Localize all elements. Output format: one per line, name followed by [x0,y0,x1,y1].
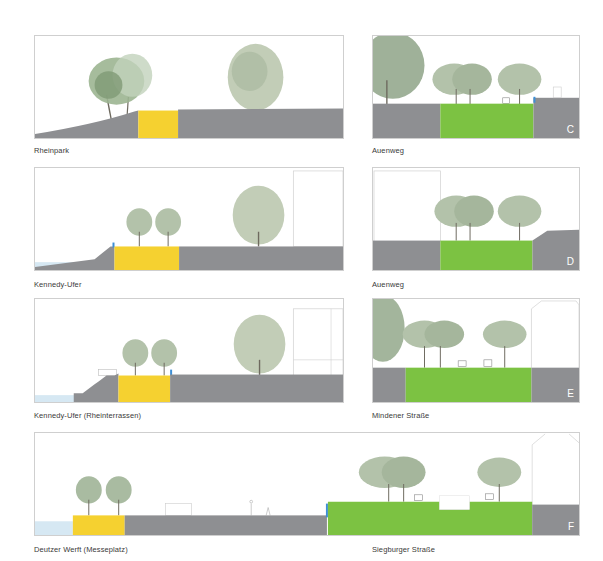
caption-rheinpark: Rheinpark [34,146,69,155]
caption-kennedy-ufer-rheinterrassen: Kennedy-Ufer (Rheinterrassen) [34,411,141,420]
cross-section-kennedy-ufer [35,168,343,270]
building-outline [374,171,440,242]
section-panel-auenweg-c: C [372,35,580,139]
caption-mindener-strasse: Mindener Straße [372,411,429,420]
large-tree-icon [234,315,286,376]
large-tree-icon [228,44,284,111]
tree-icon [498,195,542,240]
section-panel-kennedy-ufer-rheinterrassen [34,298,344,403]
background-tree-icon [373,36,425,105]
building-outline [532,434,579,506]
cross-section-deutzer-werft-siegburger [35,433,579,535]
building-outline [293,171,343,247]
section-letter-e: E [567,388,574,399]
section-panel-rheinpark [34,35,344,139]
caption-deutzer-werft: Deutzer Werft (Messeplatz) [34,545,128,554]
cross-section-mindener-strasse [373,299,579,402]
car-icon [458,361,466,367]
tree-pair-icon [403,321,464,368]
market-stall-icon [166,504,192,516]
people-icon [250,500,270,515]
car-icon [484,360,492,367]
tree-pair-icon [122,339,177,375]
section-letter-c: C [567,124,574,135]
car-icon [485,494,493,500]
car-icon [415,495,423,501]
tree-pair-icon [434,195,493,240]
underpass-box [440,496,470,510]
cross-section-kennedy-ufer-rheinterrassen [35,299,343,402]
cross-section-auenweg-d [373,168,579,270]
railing [99,370,117,376]
cross-section-auenweg-c [373,36,579,138]
cross-section-rheinpark [35,36,343,138]
building-outline [293,309,343,376]
caption-auenweg-c: Auenweg [372,146,404,155]
car-icon [503,98,510,104]
section-panel-mindener-strasse: E [372,298,580,403]
background-tree-icon [373,299,405,362]
tree-icon [483,321,527,368]
tree-icon [477,458,521,502]
section-panel-auenweg-d: D [372,167,580,271]
caption-siegburger-strasse: Siegburger Straße [372,545,435,554]
building-outline [531,301,579,368]
section-panel-kennedy-ufer [34,167,344,271]
section-letter-f: F [568,521,574,532]
section-panel-deutzer-werft-siegburger: F [34,432,580,536]
caption-auenweg-d: Auenweg [372,280,404,289]
tree-pair-icon [76,476,132,515]
section-letter-d: D [567,256,574,267]
caption-kennedy-ufer: Kennedy-Ufer [34,280,81,289]
tree-pair-icon [432,63,491,104]
large-tree-icon [233,186,285,247]
tree-pair-icon [126,208,181,246]
